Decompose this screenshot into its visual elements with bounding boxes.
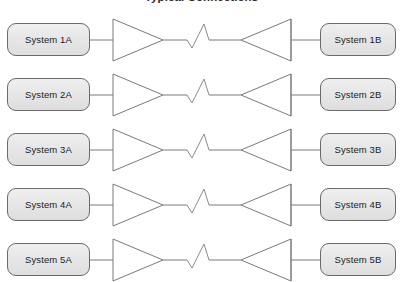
system-box-left[interactable]: System 5A xyxy=(7,243,90,276)
amplifier-triangle-left-icon xyxy=(241,129,291,171)
system-box-right[interactable]: System 3B xyxy=(320,133,396,166)
system-box-right-label: System 1B xyxy=(335,34,382,45)
lightning-zigzag-icon xyxy=(187,79,209,103)
amplifier-triangle-right-icon xyxy=(113,19,163,61)
system-box-left-label: System 2A xyxy=(25,89,72,100)
lightning-zigzag-icon xyxy=(187,134,209,158)
system-box-right[interactable]: System 1B xyxy=(320,23,396,56)
amplifier-triangle-right-icon xyxy=(113,74,163,116)
connection-row: System 2ASystem 2B xyxy=(0,67,403,123)
amplifier-triangle-right-icon xyxy=(113,129,163,171)
amplifier-triangle-left-icon xyxy=(241,239,291,281)
lightning-zigzag-icon xyxy=(187,24,209,48)
system-box-right[interactable]: System 5B xyxy=(320,243,396,276)
page-title: Typical Connections xyxy=(0,0,403,5)
system-box-left-label: System 1A xyxy=(25,34,72,45)
system-box-left-label: System 5A xyxy=(25,254,72,265)
diagram-canvas: Typical Connections System 1ASystem 1BSy… xyxy=(0,0,403,282)
system-box-right-label: System 4B xyxy=(335,199,382,210)
amplifier-triangle-left-icon xyxy=(241,184,291,226)
lightning-zigzag-icon xyxy=(187,189,209,213)
amplifier-triangle-left-icon xyxy=(241,74,291,116)
connection-row: System 3ASystem 3B xyxy=(0,122,403,178)
system-box-left[interactable]: System 2A xyxy=(7,78,90,111)
system-box-left[interactable]: System 1A xyxy=(7,23,90,56)
system-box-right[interactable]: System 2B xyxy=(320,78,396,111)
amplifier-triangle-left-icon xyxy=(241,19,291,61)
system-box-right-label: System 3B xyxy=(335,144,382,155)
amplifier-triangle-right-icon xyxy=(113,239,163,281)
amplifier-triangle-right-icon xyxy=(113,184,163,226)
connection-row: System 1ASystem 1B xyxy=(0,12,403,68)
system-box-right-label: System 5B xyxy=(335,254,382,265)
lightning-zigzag-icon xyxy=(187,244,209,268)
system-box-left[interactable]: System 3A xyxy=(7,133,90,166)
connection-row: System 4ASystem 4B xyxy=(0,177,403,233)
system-box-left[interactable]: System 4A xyxy=(7,188,90,221)
system-box-right-label: System 2B xyxy=(335,89,382,100)
system-box-left-label: System 3A xyxy=(25,144,72,155)
system-box-right[interactable]: System 4B xyxy=(320,188,396,221)
system-box-left-label: System 4A xyxy=(25,199,72,210)
connection-row: System 5ASystem 5B xyxy=(0,232,403,282)
